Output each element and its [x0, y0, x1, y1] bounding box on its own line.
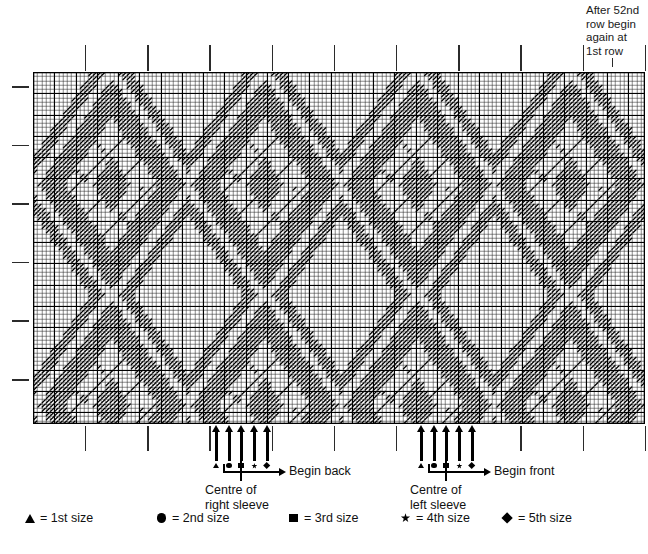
- size-arrow-head-2-icon: [430, 425, 438, 432]
- circle-symbol-icon: [431, 463, 436, 468]
- size-arrow-2: [433, 431, 436, 461]
- legend-item-2: = 2nd size: [156, 508, 229, 528]
- circle-glyph-icon: [157, 513, 166, 522]
- legend-label-3: = 3rd size: [304, 511, 359, 525]
- star-symbol-icon: [251, 463, 257, 469]
- right-sleeve-direction-arrow-head-icon: [279, 468, 286, 476]
- size-arrow-head-3-icon: [237, 425, 245, 432]
- top-tick: [147, 45, 148, 71]
- right-sleeve-marker-group: Begin back Centre of right sleeve: [205, 425, 435, 505]
- legend-label-1: = 1st size: [40, 511, 93, 525]
- top-tick: [583, 45, 584, 71]
- legend-item-3: = 3rd size: [288, 508, 359, 528]
- left-sleeve-direction-arrow-line: [428, 471, 486, 473]
- left-tick: [12, 262, 29, 264]
- size-arrow-5: [471, 431, 474, 461]
- top-tick: [272, 45, 273, 71]
- triangle-symbol-icon: [213, 463, 219, 468]
- left-sleeve-marker-group: Begin front Centre of left sleeve: [410, 425, 640, 505]
- triangle-symbol-icon: [418, 463, 424, 468]
- star-legend-icon: [400, 513, 411, 524]
- size-arrow-head-3-icon: [442, 425, 450, 432]
- size-arrow-1: [420, 431, 423, 461]
- star-glyph-icon: [401, 513, 411, 523]
- top-tick: [396, 45, 397, 71]
- repeat-note-pointer-icon: [612, 58, 613, 67]
- left-tick: [12, 203, 29, 205]
- repeat-note: After 52nd row begin again at 1st row: [586, 4, 648, 58]
- size-arrow-head-5-icon: [263, 425, 271, 432]
- bottom-tick: [645, 426, 646, 451]
- left-tick: [12, 86, 29, 88]
- square-glyph-icon: [289, 514, 297, 522]
- size-arrow-head-1-icon: [417, 425, 425, 432]
- size-arrow-head-5-icon: [468, 425, 476, 432]
- size-arrow-2: [228, 431, 231, 461]
- size-arrow-5: [266, 431, 269, 461]
- square-legend-icon: [288, 513, 299, 524]
- triangle-legend-icon: [24, 513, 35, 524]
- size-arrow-4: [458, 431, 461, 461]
- size-arrow-1: [215, 431, 218, 461]
- legend-item-4: = 4th size: [400, 508, 470, 528]
- triangle-glyph-icon: [25, 514, 35, 523]
- left-sleeve-direction-arrow-head-icon: [484, 468, 491, 476]
- top-tick: [85, 45, 86, 71]
- bottom-tick: [147, 426, 148, 451]
- begin-back-label: Begin back: [289, 464, 351, 478]
- size-arrow-head-1-icon: [212, 425, 220, 432]
- right-sleeve-centre-line: [240, 447, 242, 481]
- diamond-symbol-icon: [468, 462, 476, 470]
- legend-item-1: = 1st size: [24, 508, 93, 528]
- legend-label-4: = 4th size: [416, 511, 470, 525]
- right-sleeve-direction-arrow-line: [223, 471, 281, 473]
- top-tick: [209, 45, 210, 71]
- pattern-chart[interactable]: [33, 72, 645, 424]
- top-tick: [334, 45, 335, 71]
- left-tick: [12, 145, 29, 147]
- diamond-glyph-icon: [502, 512, 514, 524]
- left-tick: [12, 379, 29, 381]
- size-arrow-head-2-icon: [225, 425, 233, 432]
- left-sleeve-centre-line: [445, 447, 447, 481]
- bottom-tick: [85, 426, 86, 451]
- size-arrow-head-4-icon: [250, 425, 258, 432]
- circle-legend-icon: [156, 513, 167, 524]
- legend-label-2: = 2nd size: [172, 511, 229, 525]
- pattern-chart-canvas[interactable]: [33, 72, 645, 424]
- diamond-symbol-icon: [263, 462, 271, 470]
- size-legend: = 1st size= 2nd size= 3rd size= 4th size…: [0, 508, 645, 532]
- size-arrow-head-4-icon: [455, 425, 463, 432]
- circle-symbol-icon: [226, 463, 231, 468]
- top-tick: [458, 45, 459, 71]
- left-tick: [12, 320, 29, 322]
- begin-front-label: Begin front: [494, 464, 554, 478]
- star-symbol-icon: [456, 463, 462, 469]
- size-arrow-4: [253, 431, 256, 461]
- top-tick: [520, 45, 521, 71]
- diamond-legend-icon: [502, 513, 513, 524]
- legend-item-5: = 5th size: [502, 508, 572, 528]
- legend-label-5: = 5th size: [518, 511, 572, 525]
- top-tick: [645, 45, 646, 71]
